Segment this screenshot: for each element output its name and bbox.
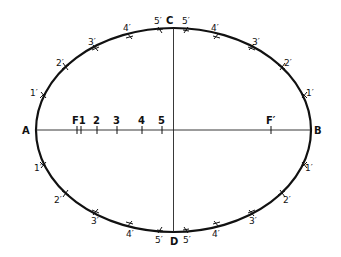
arc-label-br-4: 4′ (212, 229, 220, 239)
arc-label-bl-2: 2′ (54, 195, 62, 205)
arc-label-bl-3: 3′ (91, 216, 99, 226)
label-f1: F1 (72, 115, 86, 126)
arc-label-tl-3: 3′ (88, 37, 96, 47)
arc-label-br-3: 3′ (249, 216, 257, 226)
label-d: D (170, 236, 178, 247)
arc-label-tl-4: 4′ (123, 23, 131, 33)
label-f-prime: F′ (266, 115, 276, 126)
arc-label-tr-4: 4′ (211, 23, 219, 33)
arc-label-tl-2: 2′ (56, 58, 64, 68)
arc-label-tr-2: 2′ (284, 58, 292, 68)
arc-label-br-1: 1′ (305, 163, 313, 173)
arc-label-bl-4: 4′ (126, 229, 134, 239)
label-b: B (314, 125, 322, 136)
label-5: 5 (158, 115, 165, 126)
arc-label-tl-5: 5′ (154, 16, 162, 26)
arc-label-tr-1: 1′ (306, 88, 314, 98)
label-a: A (22, 125, 30, 136)
arc-label-bl-5: 5′ (155, 235, 163, 245)
label-4: 4 (138, 115, 145, 126)
arc-label-br-2: 2′ (283, 195, 291, 205)
arc-label-br-5: 5′ (183, 235, 191, 245)
arc-label-tr-5: 5′ (182, 16, 190, 26)
arc-label-tl-1: 1′ (30, 88, 38, 98)
diagram-svg: F1 2 3 4 5 F′ A B C D (0, 0, 341, 257)
label-2: 2 (93, 115, 100, 126)
arc-label-tr-3: 3′ (252, 37, 260, 47)
label-3: 3 (113, 115, 120, 126)
arc-label-bl-1: 1′ (34, 163, 42, 173)
label-c: C (166, 15, 173, 26)
ellipse-diagram: F1 2 3 4 5 F′ A B C D (0, 0, 341, 257)
